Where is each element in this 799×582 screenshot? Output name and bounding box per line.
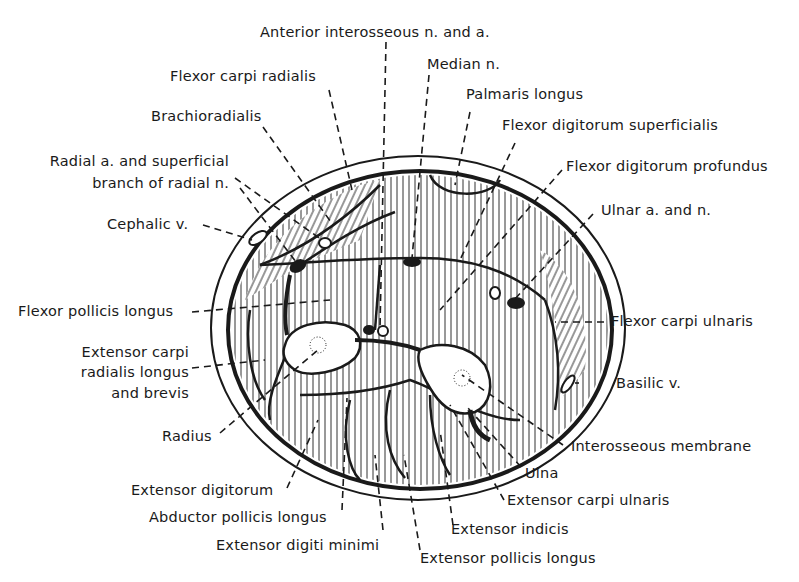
label-ulnar-artery-nerve: Ulnar a. and n. [601,202,711,219]
label-flexor-carpi-radialis: Flexor carpi radialis [170,68,316,85]
label-basilic-vein: Basilic v. [616,375,681,392]
muscle-hatching [220,160,620,500]
label-flexor-pollicis-longus: Flexor pollicis longus [18,303,173,320]
label-extensor-digitorum: Extensor digitorum [131,482,273,499]
label-cephalic-vein: Cephalic v. [107,216,188,233]
label-extensor-indicis: Extensor indicis [451,521,569,538]
label-ecrl-line2: radialis longus [81,364,189,381]
label-flexor-digitorum-profundus: Flexor digitorum profundus [566,158,768,175]
radial-artery-ring [319,238,331,248]
label-interosseous-membrane: Interosseous membrane [571,438,751,455]
label-radius: Radius [162,428,212,445]
label-brachioradialis: Brachioradialis [151,108,261,125]
median-nerve-dot [403,257,421,267]
label-radial-artery-line1: Radial a. and superficial [50,153,229,170]
label-extensor-carpi-ulnaris: Extensor carpi ulnaris [507,492,669,509]
label-palmaris-longus: Palmaris longus [466,86,583,103]
label-ecrl-line1: Extensor carpi [82,344,189,361]
label-extensor-pollicis-longus: Extensor pollicis longus [420,550,596,567]
label-flexor-carpi-ulnaris: Flexor carpi ulnaris [611,313,753,330]
label-median-nerve: Median n. [427,56,500,73]
label-flexor-digitorum-superficialis: Flexor digitorum superficialis [502,117,718,134]
ulnar-artery-ring [490,287,500,299]
anterior-interosseous-dot [363,325,375,335]
forearm-cross-section-diagram [0,0,799,582]
label-radial-artery-line2: branch of radial n. [92,175,229,192]
label-abductor-pollicis-longus: Abductor pollicis longus [149,509,327,526]
label-ulna: Ulna [525,465,559,482]
label-anterior-interosseous: Anterior interosseous n. and a. [260,24,490,41]
label-ecrl-line3: and brevis [111,385,189,402]
label-extensor-digiti-minimi: Extensor digiti minimi [216,537,379,554]
anterior-interosseous-ring [378,326,388,336]
